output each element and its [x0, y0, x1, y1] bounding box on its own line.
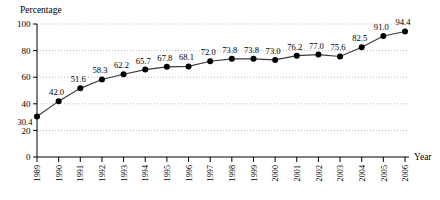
data-point-2001 [294, 53, 300, 59]
data-label-1996: 68.1 [179, 52, 194, 62]
data-label-1994: 65.7 [136, 56, 152, 66]
y-tick-label-60: 60 [22, 72, 32, 82]
data-label-1997: 72.0 [201, 47, 216, 57]
x-tick-label-1991: 1991 [76, 165, 85, 181]
x-tick-label-1997: 1997 [206, 165, 215, 181]
data-label-1990: 42.0 [49, 87, 64, 97]
data-label-2005: 91.0 [374, 22, 389, 32]
data-point-2003 [337, 53, 343, 59]
data-point-1989 [34, 114, 40, 120]
x-axis-caption: Year [414, 152, 432, 162]
x-tick-label-1995: 1995 [163, 165, 172, 181]
data-point-2004 [359, 44, 365, 50]
data-label-1998: 73.8 [222, 45, 237, 55]
data-label-2001: 76.2 [287, 42, 302, 52]
x-tick-label-1992: 1992 [98, 165, 107, 181]
x-tick-label-2002: 2002 [315, 165, 324, 181]
x-tick-label-2003: 2003 [336, 165, 345, 181]
data-label-1992: 58.3 [92, 65, 107, 75]
x-tick-label-2001: 2001 [293, 165, 302, 181]
x-tick-label-1999: 1999 [250, 165, 259, 181]
data-point-1995 [164, 64, 170, 70]
data-point-2000 [272, 57, 278, 63]
data-label-2002: 77.0 [309, 41, 324, 51]
data-point-2005 [380, 33, 386, 39]
x-tick-label-2006: 2006 [401, 165, 410, 181]
x-tick-label-1993: 1993 [120, 165, 129, 181]
x-tick-label-2000: 2000 [271, 165, 280, 181]
data-point-1999 [250, 56, 256, 62]
y-tick-label-80: 80 [22, 46, 32, 56]
chart-title: Percentage [20, 5, 62, 15]
data-point-1990 [56, 98, 62, 104]
data-label-1989: 30.4 [17, 117, 33, 127]
y-tick-label-0: 0 [26, 152, 31, 162]
data-point-1997 [207, 58, 213, 64]
x-tick-label-2004: 2004 [358, 165, 367, 181]
y-tick-label-40: 40 [22, 99, 32, 109]
data-label-1999: 73.8 [244, 45, 259, 55]
x-tick-label-1990: 1990 [55, 165, 64, 181]
x-tick-label-1994: 1994 [141, 165, 150, 181]
chart-canvas: 020406080100Percentage198919901991199219… [0, 0, 440, 200]
data-point-1993 [121, 71, 127, 77]
x-tick-label-1989: 1989 [33, 165, 42, 181]
x-tick-label-2005: 2005 [380, 165, 389, 181]
x-tick-label-1996: 1996 [185, 165, 194, 181]
data-label-2006: 94.4 [395, 17, 411, 27]
data-point-1992 [99, 76, 105, 82]
data-point-1994 [142, 67, 148, 73]
data-point-1996 [186, 63, 192, 69]
data-label-1993: 62.2 [114, 60, 129, 70]
data-label-2004: 82.5 [352, 33, 367, 43]
y-tick-label-100: 100 [17, 19, 31, 29]
data-label-2003: 75.6 [331, 42, 347, 52]
data-point-1991 [77, 85, 83, 91]
data-point-1998 [229, 56, 235, 62]
data-label-1991: 51.6 [71, 74, 87, 84]
data-point-2002 [315, 52, 321, 58]
x-axis: 1989199019911992199319941995199619971998… [33, 157, 410, 181]
line-chart: 020406080100Percentage198919901991199219… [0, 0, 440, 200]
data-label-2000: 73.0 [266, 46, 281, 56]
data-points: 30.442.051.658.362.265.767.868.172.073.8… [17, 17, 411, 127]
data-label-1995: 67.8 [157, 53, 172, 63]
data-point-2006 [402, 28, 408, 34]
x-tick-label-1998: 1998 [228, 165, 237, 181]
y-axis: 020406080100 [17, 19, 37, 162]
